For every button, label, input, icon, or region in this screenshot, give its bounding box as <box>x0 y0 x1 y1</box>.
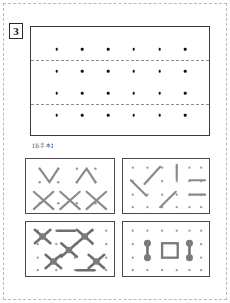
grid-dot <box>133 70 136 73</box>
panel-br-shape-dumbbell-2 <box>186 240 193 261</box>
panel-tr-shape-diagonal-up-1 <box>145 167 161 184</box>
fold-line <box>31 60 209 61</box>
grid-dot <box>81 70 84 73</box>
grid-dot <box>133 48 136 51</box>
panel-tr-shape-diagonal-down-1 <box>131 180 147 195</box>
grid-dot <box>81 114 84 117</box>
grid-dot <box>158 92 161 95</box>
grid-dot <box>107 48 110 51</box>
grid-dot <box>133 92 136 95</box>
grid-dot <box>158 48 161 51</box>
card-dot-grid <box>31 27 209 135</box>
grid-dot <box>158 70 161 73</box>
grid-dot <box>107 70 110 73</box>
grid-dot <box>55 114 58 117</box>
panel-bl-shape-xnode-4 <box>46 255 62 269</box>
grid-dot <box>133 114 136 117</box>
grid-dot <box>107 114 110 117</box>
panel-bl-shape-xnode-2 <box>77 230 93 244</box>
panel-br-dots <box>132 230 203 272</box>
panel-tl-canvas <box>26 159 114 213</box>
panel-tr-dots <box>132 167 203 209</box>
panel-tl-shape-v <box>40 169 59 183</box>
panel-br-canvas <box>123 222 209 276</box>
problem-number-badge: 3 <box>9 23 23 39</box>
example-panel-top-right <box>122 158 210 214</box>
panel-tl-shape-x-2 <box>60 192 80 209</box>
fold-line <box>31 104 209 105</box>
panel-bl-shape-xnode-3 <box>61 243 77 257</box>
example-panel-bottom-right <box>122 221 210 277</box>
example-panel-bottom-left <box>25 221 115 277</box>
panel-tl-shape-caret <box>77 169 96 183</box>
grid-dot <box>158 114 161 117</box>
model-section-label: 【お手本】 <box>30 144 56 149</box>
card-grid-box <box>30 26 210 136</box>
panel-tl-shape-x-1 <box>34 192 54 209</box>
panel-br-shape-dumbbell-1 <box>144 240 151 261</box>
grid-dot <box>184 48 187 51</box>
grid-dot <box>55 48 58 51</box>
panel-br-shape-square <box>162 243 178 257</box>
grid-dot <box>184 70 187 73</box>
grid-dot <box>81 92 84 95</box>
panel-tl-shape-x-3 <box>87 192 107 209</box>
example-panel-top-left <box>25 158 115 214</box>
grid-dot <box>107 92 110 95</box>
grid-dot <box>55 70 58 73</box>
grid-dot <box>184 114 187 117</box>
panel-bl-shape-xnode-5 <box>89 255 105 269</box>
grid-dot <box>184 92 187 95</box>
panel-tr-canvas <box>123 159 209 213</box>
panel-bl-canvas <box>26 222 114 276</box>
panel-bl-shape-xnode-1 <box>35 230 51 244</box>
grid-dot <box>55 92 58 95</box>
grid-dot <box>81 48 84 51</box>
